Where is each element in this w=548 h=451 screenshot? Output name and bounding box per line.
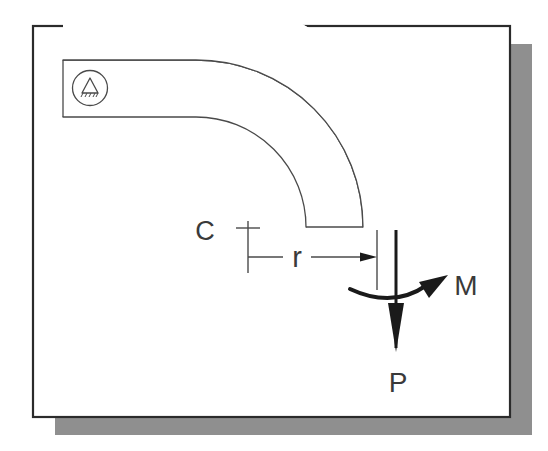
moment-label: M	[454, 270, 477, 301]
support-circle-icon	[73, 71, 108, 106]
center-label: C	[195, 216, 215, 246]
radius-label: r	[292, 241, 302, 273]
force-label: P	[389, 367, 408, 398]
ground-support-symbol	[73, 71, 108, 106]
engineering-diagram: C r P M	[0, 0, 548, 451]
diagram-canvas: C r P M	[0, 0, 548, 451]
